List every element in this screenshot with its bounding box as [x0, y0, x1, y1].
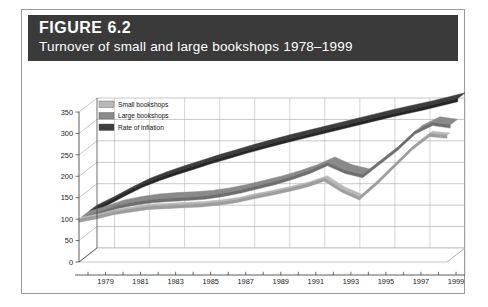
chart-plot-area: 050100150200250300350 197919811983198519…: [22, 65, 466, 293]
svg-text:1999: 1999: [448, 277, 464, 286]
svg-text:1993: 1993: [343, 277, 359, 286]
svg-text:1981: 1981: [132, 277, 148, 286]
svg-text:150: 150: [61, 193, 73, 202]
svg-text:1979: 1979: [97, 277, 113, 286]
svg-text:1983: 1983: [167, 277, 183, 286]
svg-text:1989: 1989: [273, 277, 289, 286]
svg-text:100: 100: [61, 215, 73, 224]
svg-text:1985: 1985: [202, 277, 218, 286]
svg-text:250: 250: [61, 151, 73, 160]
svg-text:50: 50: [65, 236, 73, 245]
figure-caption: Turnover of small and large bookshops 19…: [39, 38, 353, 55]
svg-text:300: 300: [61, 129, 73, 138]
x-axis-tick-labels: 1979198119831985198719891991199319951997…: [97, 277, 464, 286]
figure-title-band: FIGURE 6.2 Turnover of small and large b…: [28, 15, 458, 61]
svg-text:350: 350: [61, 108, 73, 117]
svg-text:1991: 1991: [308, 277, 324, 286]
area-chart-svg: 050100150200250300350 197919811983198519…: [22, 65, 466, 293]
svg-text:0: 0: [69, 258, 73, 267]
figure-number: FIGURE 6.2: [39, 19, 131, 37]
y-axis-tick-labels: 050100150200250300350: [61, 108, 73, 267]
svg-text:1987: 1987: [237, 277, 253, 286]
svg-text:1997: 1997: [413, 277, 429, 286]
svg-text:1995: 1995: [378, 277, 394, 286]
chart-legend: Small bookshopsLarge bookshopsRate of in…: [99, 101, 169, 131]
svg-text:Rate of inflation: Rate of inflation: [118, 124, 164, 131]
svg-text:Large bookshops: Large bookshops: [118, 112, 169, 120]
svg-text:200: 200: [61, 172, 73, 181]
figure-card: FIGURE 6.2 Turnover of small and large b…: [21, 9, 465, 294]
svg-text:Small bookshops: Small bookshops: [118, 101, 169, 109]
chart-3d-walls: [79, 248, 465, 262]
